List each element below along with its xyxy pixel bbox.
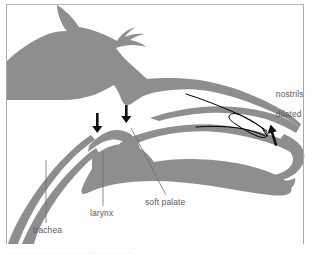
label-nostrils-dilated: nostrils dilated: [266, 79, 304, 129]
label-nostrils-line2: dilated: [276, 109, 302, 119]
figure-root: trachea larynx soft palate nostrils dila…: [0, 0, 312, 254]
clipped-caption: ........................................…: [8, 247, 304, 254]
label-trachea: trachea: [33, 225, 62, 235]
head-and-neck-silhouette: [6, 5, 301, 128]
arrow-larynx-icon: [92, 113, 102, 133]
label-soft-palate: soft palate: [145, 197, 185, 207]
label-larynx: larynx: [90, 208, 113, 218]
label-nostrils-line1: nostrils: [276, 89, 304, 99]
nostril-opening-dot: [280, 165, 286, 170]
arrow-soft-palate-icon: [121, 105, 131, 123]
horse-silhouette-group: [6, 5, 304, 244]
